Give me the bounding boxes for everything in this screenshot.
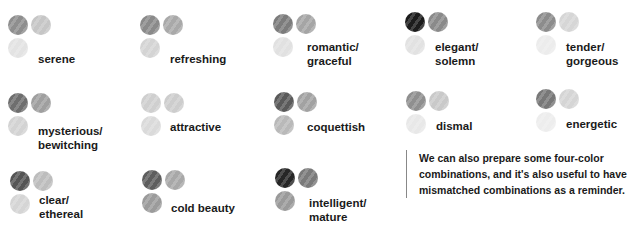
color-swatch-circle-icon xyxy=(140,15,160,35)
combo-label: coquettish xyxy=(307,120,365,134)
color-swatch-circle-icon xyxy=(274,115,294,135)
color-swatch-circle-icon xyxy=(406,114,426,134)
color-swatch-circle-icon xyxy=(141,116,161,136)
color-swatch-circle-icon xyxy=(406,91,426,111)
color-swatch-circle-icon xyxy=(428,12,448,32)
color-swatch-circle-icon xyxy=(559,12,579,32)
color-swatch-circle-icon xyxy=(140,38,160,58)
color-swatch-circle-icon xyxy=(141,93,161,113)
color-swatch-circle-icon xyxy=(536,12,556,32)
combo-label: romantic/ graceful xyxy=(307,40,359,68)
color-swatch-circle-icon xyxy=(296,14,316,34)
color-swatch-circle-icon xyxy=(298,168,318,188)
combo-label: attractive xyxy=(170,120,221,134)
color-swatch-circle-icon xyxy=(142,193,162,213)
color-swatch-circle-icon xyxy=(31,93,51,113)
color-swatch-circle-icon xyxy=(405,12,425,32)
color-swatch-circle-icon xyxy=(559,89,579,109)
note-text: We can also prepare some four-color comb… xyxy=(406,150,629,198)
color-swatch-circle-icon xyxy=(142,170,162,190)
color-swatch-circle-icon xyxy=(275,191,295,211)
combo-label: elegant/ solemn xyxy=(435,40,478,68)
color-swatch-circle-icon xyxy=(8,116,28,136)
combo-label: tender/ gorgeous xyxy=(566,40,618,68)
color-swatch-circle-icon xyxy=(405,35,425,55)
color-swatch-circle-icon xyxy=(536,89,556,109)
color-swatch-circle-icon xyxy=(31,15,51,35)
combo-label: refreshing xyxy=(170,52,226,66)
color-swatch-circle-icon xyxy=(273,14,293,34)
combo-label: dismal xyxy=(436,119,472,133)
color-swatch-circle-icon xyxy=(164,93,184,113)
color-swatch-circle-icon xyxy=(8,93,28,113)
color-swatch-circle-icon xyxy=(274,92,294,112)
color-swatch-circle-icon xyxy=(163,15,183,35)
combo-label: clear/ ethereal xyxy=(39,193,83,221)
color-swatch-circle-icon xyxy=(10,194,30,214)
combo-label: mysterious/ bewitching xyxy=(38,124,103,152)
color-swatch-circle-icon xyxy=(536,35,556,55)
combo-refreshing xyxy=(140,15,265,85)
color-swatch-circle-icon xyxy=(536,112,556,132)
color-swatch-circle-icon xyxy=(165,170,185,190)
color-swatch-circle-icon xyxy=(275,168,295,188)
combo-serene xyxy=(8,15,133,85)
combo-label: cold beauty xyxy=(171,201,235,215)
color-swatch-circle-icon xyxy=(273,37,293,57)
color-swatch-circle-icon xyxy=(8,15,28,35)
color-swatch-circle-icon xyxy=(8,38,28,58)
color-swatch-circle-icon xyxy=(33,171,53,191)
color-swatch-circle-icon xyxy=(10,171,30,191)
color-swatch-circle-icon xyxy=(429,91,449,111)
color-swatch-circle-icon xyxy=(297,92,317,112)
combo-label: energetic xyxy=(566,117,617,131)
combo-label: intelligent/ mature xyxy=(309,196,367,224)
combo-label: serene xyxy=(38,52,75,66)
